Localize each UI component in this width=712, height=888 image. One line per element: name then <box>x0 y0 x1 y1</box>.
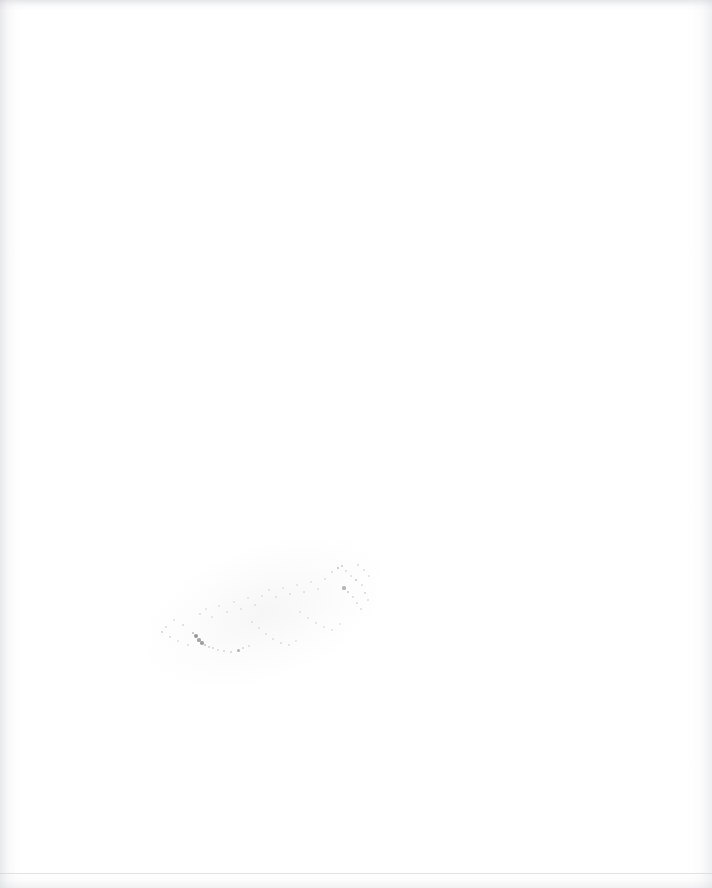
scanned-document-page <box>0 0 712 888</box>
scan-edge-shadow-left <box>0 0 26 888</box>
scan-edge-shadow-top <box>0 0 712 14</box>
scan-edge-shadow-right <box>682 0 712 888</box>
paper-background <box>0 0 712 888</box>
scan-edge-line-bottom <box>0 873 712 874</box>
